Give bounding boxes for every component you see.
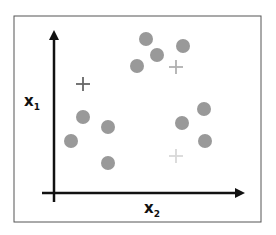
data-point [101, 120, 115, 134]
data-point [198, 134, 212, 148]
data-point [130, 59, 144, 73]
data-point [197, 102, 211, 116]
data-point [64, 134, 78, 148]
frame [14, 16, 261, 222]
scatter-diagram [0, 0, 276, 235]
data-point [176, 39, 190, 53]
data-point [101, 156, 115, 170]
y-axis-label: x1 [24, 92, 40, 112]
data-point [139, 32, 153, 46]
data-point [175, 116, 189, 130]
x-axis-label: x2 [144, 199, 160, 219]
data-point [76, 110, 90, 124]
data-point [150, 48, 164, 62]
